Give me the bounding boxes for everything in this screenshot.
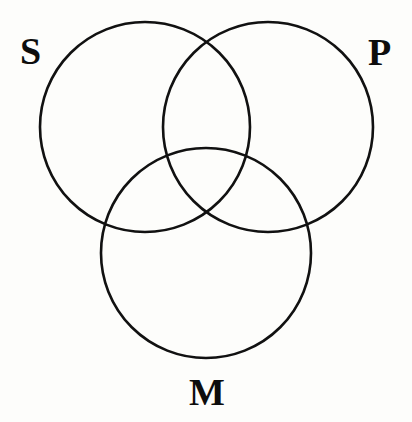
venn-label-m: M [189, 373, 225, 411]
venn-diagram-canvas: S P M [0, 0, 412, 422]
venn-label-p: P [368, 33, 391, 71]
venn-circle-m [101, 148, 311, 358]
venn-label-s: S [20, 32, 41, 70]
venn-circle-p [163, 22, 373, 232]
venn-circles-group [0, 0, 412, 422]
venn-circle-s [40, 22, 250, 232]
